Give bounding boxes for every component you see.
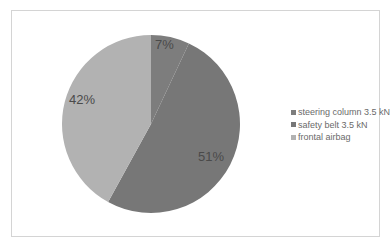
- legend-label: safety belt 3.5 kN: [298, 119, 368, 132]
- legend-swatch: [291, 122, 296, 127]
- legend-label: steering column 3.5 kN: [298, 106, 390, 119]
- legend-swatch: [291, 110, 296, 115]
- legend-item-safety-belt: safety belt 3.5 kN: [291, 119, 390, 132]
- legend-item-steering-column: steering column 3.5 kN: [291, 106, 390, 119]
- legend-label: frontal airbag: [298, 131, 351, 144]
- legend: steering column 3.5 kN safety belt 3.5 k…: [291, 106, 390, 144]
- legend-swatch: [291, 135, 296, 140]
- legend-item-frontal-airbag: frontal airbag: [291, 131, 390, 144]
- data-label: 51%: [198, 149, 224, 164]
- data-label: 42%: [69, 92, 95, 107]
- data-label: 7%: [155, 37, 174, 52]
